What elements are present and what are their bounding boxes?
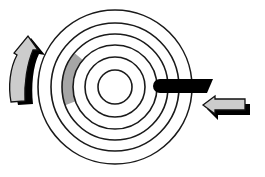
read-write-head <box>153 79 213 93</box>
track-2 <box>85 57 145 117</box>
head-movement-arrow-icon <box>203 96 250 120</box>
track-1 <box>98 70 132 104</box>
track-4 <box>62 34 168 140</box>
diagram-canvas <box>0 0 265 177</box>
disk-diagram <box>0 0 265 177</box>
highlighted-sector <box>62 53 83 105</box>
